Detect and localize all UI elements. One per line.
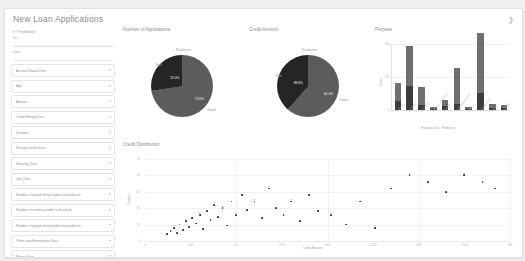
pie-label-good: Good [207, 108, 215, 112]
scatter-point[interactable] [445, 191, 447, 193]
scatter-point[interactable] [345, 224, 347, 226]
scatter-point-label: 18 [185, 218, 187, 220]
caret-down-icon [109, 116, 111, 118]
scatter-point[interactable] [359, 201, 361, 203]
scatter-point[interactable] [226, 225, 228, 227]
scatter-y-tick: 45 [137, 190, 140, 194]
scatter-point[interactable] [173, 227, 175, 229]
scatter-point[interactable] [290, 201, 292, 203]
field-name[interactable]: Name [11, 50, 115, 61]
scatter-point[interactable] [176, 232, 178, 234]
scatter-point[interactable] [374, 227, 376, 229]
scatter-point[interactable] [210, 219, 212, 221]
scatter-point[interactable] [246, 209, 248, 211]
amount-pie-chart[interactable]: Prediction61.4%Good38.6%Bad [249, 34, 367, 132]
scatter-gridline-v [236, 159, 237, 241]
scatter-point[interactable] [217, 216, 219, 218]
purpose-bar-plot[interactable]: 0120240businesscar (new)car (used)domest… [391, 44, 510, 111]
bar-y-tick: 0 [388, 108, 390, 112]
caret-down-icon [109, 69, 111, 71]
filter-dropdown-0[interactable]: Account Status Desc [11, 64, 115, 77]
scatter-point[interactable] [231, 201, 233, 203]
scatter-point[interactable] [185, 220, 187, 222]
scatter-point-label: 24 [199, 211, 201, 213]
scatter-point[interactable] [166, 234, 168, 236]
scatter-x-tick: 2.5K [188, 243, 194, 247]
filter-dropdown-9[interactable]: Number of existing credits at this bank [11, 204, 115, 217]
scatter-point[interactable] [199, 214, 201, 216]
scatter-point[interactable] [179, 224, 181, 226]
scatter-point[interactable] [330, 214, 332, 216]
filter-dropdown-4[interactable]: Duration [11, 126, 115, 139]
purpose-bar[interactable] [477, 33, 483, 110]
filter-dropdown-7[interactable]: Job_Desc [11, 173, 115, 186]
scatter-point[interactable] [482, 181, 484, 183]
scatter-point-label: 24 [330, 211, 332, 213]
scatter-point[interactable] [235, 214, 237, 216]
caret-down-icon [109, 147, 111, 149]
bar-segment-good [454, 68, 460, 104]
filters-header-label: Prediction [17, 29, 36, 34]
scatter-point-label: 33 [213, 201, 215, 203]
filter-sidebar: ▾ Prediction No. Name Account Status Des… [11, 29, 115, 253]
scatter-point[interactable] [182, 229, 184, 231]
scatter-point[interactable] [195, 223, 197, 225]
scatter-point[interactable] [170, 230, 172, 232]
scatter-point[interactable] [261, 217, 263, 219]
pie-slices[interactable] [277, 55, 339, 117]
scatter-y-tick: 15 [137, 223, 140, 227]
pie-value-good: 61.4% [324, 92, 333, 96]
pie-label-good: Good [339, 98, 347, 102]
scatter-x-tick: 17.5K [461, 243, 468, 247]
scatter-point[interactable] [390, 188, 392, 190]
filter-dropdown-6[interactable]: Housing_Desc [11, 157, 115, 170]
filter-dropdown-1[interactable]: Age [11, 80, 115, 93]
caret-down-icon [109, 178, 111, 180]
dashboard-window: New Loan Applications ❯ ▾ Prediction No.… [4, 8, 523, 258]
scatter-point[interactable] [213, 204, 215, 206]
purpose-bar-panel: Purpose 0120240businesscar (new)car (use… [375, 27, 520, 137]
filter-dropdown-11[interactable]: Other installment plans Desc [11, 235, 115, 248]
scatter-point[interactable] [202, 228, 204, 230]
scatter-point[interactable] [463, 174, 465, 176]
filter-dropdown-8[interactable]: Number of people being liable to provide… [11, 188, 115, 201]
scatter-point[interactable] [283, 214, 285, 216]
scatter-point[interactable] [427, 181, 429, 183]
caret-down-icon [109, 240, 111, 242]
scatter-point[interactable] [188, 226, 190, 228]
scatter-point[interactable] [206, 211, 208, 213]
chevron-right-icon[interactable]: ❯ [507, 16, 515, 24]
filter-dropdown-5[interactable]: Foreign worker Desc [11, 142, 115, 155]
filter-dropdown-list: Account Status DescAgeAmountCredit Histo… [11, 64, 115, 258]
scatter-point[interactable] [308, 194, 310, 196]
applications-pie-chart[interactable]: Prediction72.6%Good27.4%Bad [123, 34, 241, 132]
scatter-point[interactable] [192, 217, 194, 219]
filter-dropdown-12[interactable]: Phone Desc [11, 250, 115, 258]
scatter-point[interactable] [275, 207, 277, 209]
caret-down-icon [109, 100, 111, 102]
filters-header[interactable]: ▾ Prediction [11, 29, 115, 36]
bar-segment-good [477, 33, 483, 93]
scatter-point[interactable] [317, 211, 319, 213]
pie-legend-title: Prediction [176, 48, 191, 52]
filter-dropdown-2[interactable]: Amount [11, 95, 115, 108]
scatter-point-label: 48 [268, 185, 270, 187]
scatter-plot[interactable]: 0153045607502.5K5K7.5K10K12.5K15K17.5K20… [145, 159, 510, 242]
purpose-x-axis-title: Purpose Desc, Prediction [421, 126, 455, 130]
field-no[interactable]: No. [11, 36, 115, 47]
purpose-bar[interactable] [406, 46, 412, 110]
caret-down-icon [109, 255, 111, 257]
scatter-point[interactable] [241, 194, 243, 196]
scatter-point[interactable] [254, 201, 256, 203]
scatter-point[interactable] [222, 207, 224, 209]
scatter-point[interactable] [268, 188, 270, 190]
filter-dropdown-3[interactable]: Credit History Desc [11, 111, 115, 124]
scatter-point-label: 12 [374, 224, 376, 226]
applications-pie-title: Number of Applications [123, 27, 241, 32]
filter-dropdown-10[interactable]: Number of people being liable to provide… [11, 219, 115, 232]
scatter-point[interactable] [299, 220, 301, 222]
field-name-input[interactable] [13, 55, 113, 61]
scatter-point[interactable] [409, 174, 411, 176]
field-no-input[interactable] [13, 41, 113, 47]
scatter-point[interactable] [494, 188, 496, 190]
